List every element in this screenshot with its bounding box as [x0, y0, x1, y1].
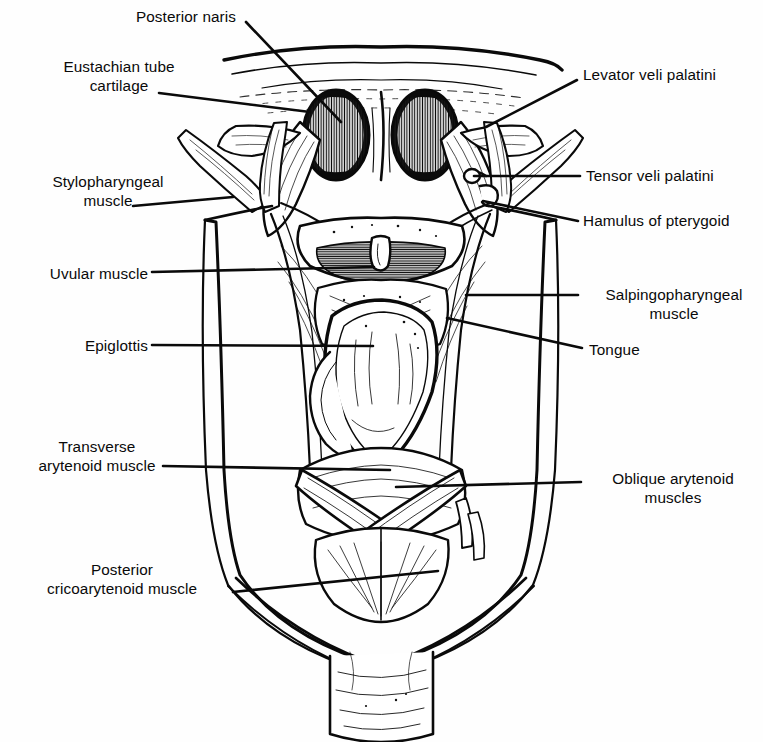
label-tensor-veli-palatini: Tensor veli palatini [586, 167, 763, 186]
label-stylopharyngeal-muscle: Stylopharyngeal muscle [22, 173, 194, 210]
figure-canvas: Posterior narisEustachian tube cartilage… [0, 0, 763, 742]
label-uvular-muscle: Uvular muscle [10, 265, 148, 284]
label-hamulus-of-pterygoid: Hamulus of pterygoid [583, 212, 763, 231]
label-posterior-naris: Posterior naris [106, 8, 266, 27]
label-oblique-arytenoid-muscles: Oblique arytenoid muscles [586, 470, 760, 507]
label-levator-veli-palatini: Levator veli palatini [583, 66, 763, 85]
label-eustachian-tube-cartilage: Eustachian tube cartilage [26, 58, 212, 95]
label-epiglottis: Epiglottis [10, 337, 148, 356]
label-tongue: Tongue [589, 341, 709, 360]
leader-eustachian-tube-cartilage [159, 93, 310, 112]
leader-levator-veli-palatini [486, 80, 577, 127]
leader-tongue [447, 318, 582, 348]
label-salpingopharyngeal-muscle: Salpingopharyngeal muscle [584, 286, 763, 323]
anatomy-illustration [0, 0, 763, 742]
leader-epiglottis [152, 345, 373, 346]
label-transverse-arytenoid-muscle: Transverse arytenoid muscle [12, 438, 182, 475]
label-posterior-cricoarytenoid-muscle: Posterior cricoarytenoid muscle [16, 561, 228, 598]
